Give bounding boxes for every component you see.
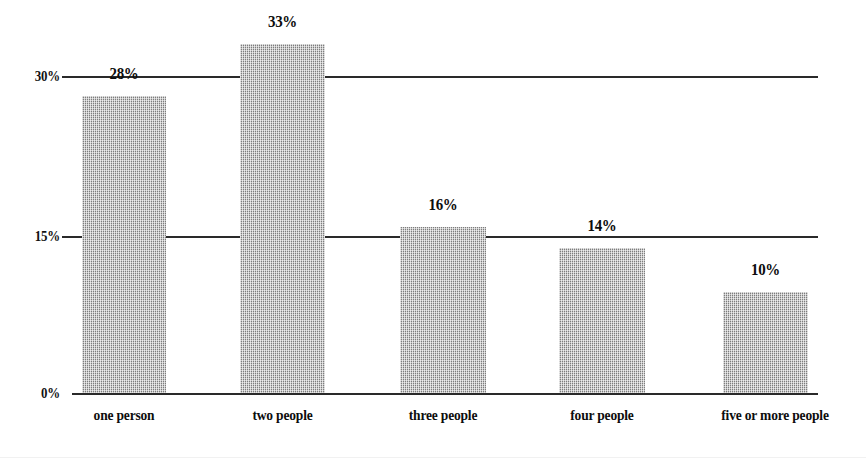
value-label-three-people: 16% (405, 195, 481, 215)
category-label-one-person: one person (68, 407, 180, 424)
bar-five-or-more-people[interactable] (723, 292, 808, 393)
value-label-four-people: 14% (564, 216, 640, 236)
ytick-label-15: 15% (8, 228, 60, 245)
category-label-five-or-more-people: five or more people (699, 407, 852, 424)
ytick-label-0: 0% (8, 385, 60, 402)
value-label-two-people: 33% (245, 12, 320, 32)
bar-three-people[interactable] (400, 227, 486, 393)
bar-chart: 30% 15% 0% 28% 33% 16% 14% 10% one perso… (0, 0, 866, 459)
bar-four-people[interactable] (559, 248, 645, 393)
category-label-two-people: two people (226, 407, 339, 424)
bar-two-people[interactable] (240, 44, 325, 393)
value-label-one-person: 28% (87, 64, 161, 84)
value-label-five-or-more-people: 10% (728, 260, 803, 280)
scan-edge-artifact (0, 457, 866, 458)
tick-mark-30 (62, 76, 75, 78)
category-label-four-people: four people (546, 407, 658, 424)
tick-mark-15 (62, 236, 75, 238)
axis-baseline (72, 393, 818, 395)
ytick-label-30: 30% (8, 68, 60, 85)
category-label-three-people: three people (385, 407, 502, 424)
bar-one-person[interactable] (82, 96, 166, 393)
gridline-30 (72, 76, 818, 78)
plot-area: 30% 15% 0% 28% 33% 16% 14% 10% one perso… (0, 0, 866, 459)
